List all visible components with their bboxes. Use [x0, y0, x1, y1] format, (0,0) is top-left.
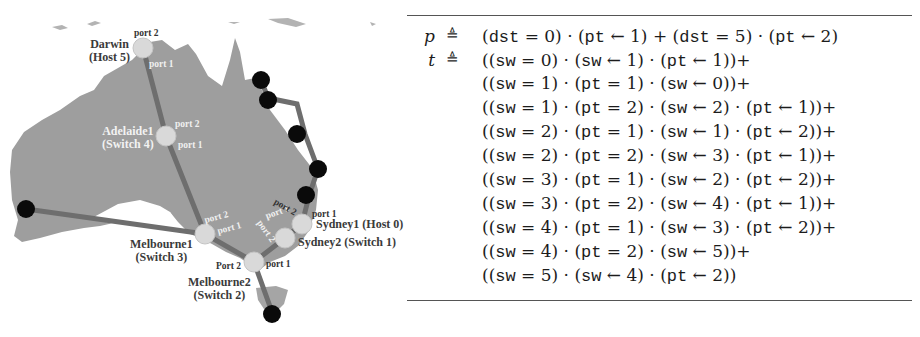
- port-label: Port 2: [216, 261, 241, 271]
- formula-rhs: ((sw = 1) · (pt = 2) · (sw ← 2) · (pt ← …: [482, 97, 836, 118]
- formula-rhs: ((sw = 3) · (pt = 2) · (sw ← 4) · (pt ← …: [482, 193, 836, 214]
- formula-rhs: ((sw = 1) · (pt = 1) · (sw ← 0))+: [482, 73, 751, 94]
- node-label-melbourne2: Melbourne2 (Switch 2): [188, 276, 251, 301]
- port-label: port 1: [149, 59, 174, 69]
- node-name: Darwin: [89, 38, 130, 51]
- port-label: port 2: [175, 119, 200, 129]
- port-label: port 1: [178, 140, 203, 150]
- defeq-symbol: ≜: [441, 50, 463, 68]
- node-role: (Host 5): [89, 51, 130, 64]
- node-name: Melbourne1: [130, 238, 193, 251]
- node-label-melbourne1: Melbourne1 (Switch 3): [130, 238, 193, 263]
- australia-topology-figure: Darwin (Host 5) port 2 port 1 Adelaide1 …: [0, 0, 400, 337]
- port-label: port 2: [134, 28, 159, 38]
- port-label: port 1: [266, 259, 291, 269]
- formula-rhs: (dst = 0) · (pt ← 1) + (dst = 5) · (pt ←…: [482, 26, 838, 47]
- formula-rhs: ((sw = 4) · (pt = 1) · (sw ← 3) · (pt ← …: [482, 217, 836, 238]
- node-name: Adelaide1: [102, 125, 154, 138]
- formula-rhs: ((sw = 2) · (pt = 2) · (sw ← 3) · (pt ← …: [482, 145, 836, 166]
- port-label: port 1: [312, 209, 337, 219]
- formula-rhs: ((sw = 0) · (sw ← 1) · (pt ← 1))+: [482, 50, 751, 71]
- node-label-sydney2: Sydney2 (Switch 1): [298, 236, 396, 249]
- bottom-rule: [407, 300, 912, 301]
- netkat-program: p ≜ (dst = 0) · (pt ← 1) + (dst = 5) · (…: [407, 0, 920, 337]
- formula-rhs: ((sw = 3) · (pt = 1) · (sw ← 2) · (pt ← …: [482, 169, 836, 190]
- formula-rhs: ((sw = 2) · (pt = 1) · (sw ← 1) · (pt ← …: [482, 121, 836, 142]
- node-name: Melbourne2: [188, 276, 251, 289]
- node-role: (Switch 4): [102, 138, 154, 151]
- formula-rhs: ((sw = 5) · (sw ← 4) · (pt ← 2)): [482, 265, 736, 286]
- formula-lhs: p: [407, 26, 435, 46]
- node-role: (Switch 3): [130, 251, 193, 264]
- node-role: (Switch 2): [188, 289, 251, 302]
- formula-lhs: t: [407, 50, 435, 70]
- formula-rhs: ((sw = 4) · (pt = 2) · (sw ← 5))+: [482, 241, 751, 262]
- top-rule: [407, 15, 912, 16]
- node-label-sydney1: Sydney1 (Host 0): [316, 218, 403, 231]
- defeq-symbol: ≜: [441, 26, 463, 44]
- node-label-darwin: Darwin (Host 5): [89, 38, 130, 63]
- node-label-adelaide1: Adelaide1 (Switch 4): [102, 125, 154, 150]
